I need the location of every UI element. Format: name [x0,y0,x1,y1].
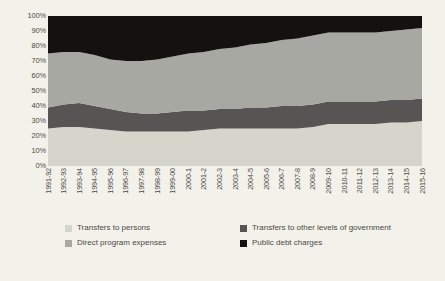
x-axis-tick-label: 1994-95 [91,168,98,194]
x-axis-tick-label: 2010-11 [341,168,348,193]
y-axis: 0%10%20%30%40%50%60%70%80%90%100% [14,0,46,281]
x-axis-tick-label: 2009-10 [325,168,332,194]
legend-label: Public debt charges [252,239,322,247]
legend-item: Transfers to persons [65,224,150,232]
legend-swatch-icon [65,225,72,232]
x-axis-tick-label: 1996-97 [122,168,129,194]
y-axis-tick-label: 20% [16,132,46,139]
x-axis-tick-label: 2003-4 [232,168,239,190]
y-axis-tick-label: 70% [16,57,46,64]
legend-swatch-icon [65,240,72,247]
y-axis-tick-label: 40% [16,102,46,109]
legend-label: Direct program expenses [77,239,166,247]
x-axis-tick-label: 2011-12 [356,168,363,193]
legend-item: Transfers to other levels of government [240,224,391,232]
legend-label: Transfers to persons [77,224,150,232]
x-axis-tick-label: 1998-99 [154,168,161,194]
y-axis-tick-label: 90% [16,27,46,34]
x-axis-tick-label: 2005-6 [263,168,270,190]
x-axis-tick-label: 2014-15 [403,168,410,194]
x-axis-tick-label: 2008-9 [309,168,316,190]
x-axis-tick-label: 1991-92 [45,168,52,194]
x-axis: 1991-921992-931993-941994-951995-961996-… [48,168,423,216]
legend-swatch-icon [240,225,247,232]
x-axis-tick-label: 2004-5 [247,168,254,190]
x-axis-tick-label: 1993-94 [76,168,83,194]
y-axis-tick-label: 50% [16,87,46,94]
y-axis-tick-label: 0% [16,162,46,169]
y-axis-tick-label: 100% [16,12,46,19]
y-axis-tick-label: 30% [16,117,46,124]
legend-swatch-icon [240,240,247,247]
y-axis-tick-label: 60% [16,72,46,79]
x-axis-tick-label: 2012-13 [372,168,379,194]
x-axis-tick-label: 2002-3 [216,168,223,190]
legend-label: Transfers to other levels of government [252,224,391,232]
y-axis-tick-label: 80% [16,42,46,49]
x-axis-tick-label: 2000-1 [185,168,192,190]
y-axis-tick-label: 10% [16,147,46,154]
x-axis-tick-label: 2007-8 [294,168,301,190]
x-axis-tick-label: 2006-7 [278,168,285,190]
x-axis-tick-label: 1992-93 [60,168,67,194]
legend-item: Public debt charges [240,239,322,247]
x-axis-tick-label: 2013-14 [387,168,394,194]
x-axis-tick-label: 1995-96 [107,168,114,194]
x-axis-tick-label: 1999-00 [169,168,176,194]
x-axis-tick-label: 2015-16 [419,168,426,194]
x-axis-tick-label: 1997-98 [138,168,145,194]
legend-item: Direct program expenses [65,239,166,247]
chart-legend: Transfers to personsDirect program expen… [48,222,438,262]
x-axis-tick-label: 2001-2 [200,168,207,190]
stacked-area-chart: 0%10%20%30%40%50%60%70%80%90%100% 1991-9… [0,0,445,281]
